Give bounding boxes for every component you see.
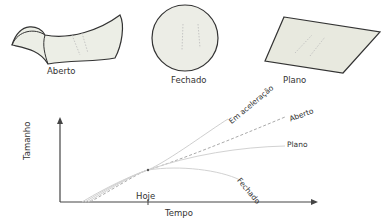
chart-curves [82, 117, 285, 202]
open-label: Aberto [47, 66, 75, 76]
saddle-surface [12, 15, 122, 64]
diagram-canvas [0, 0, 389, 222]
today-annotation: Hoje [136, 191, 155, 201]
series-label-flat: Plano [287, 140, 308, 149]
sphere-surface [152, 5, 218, 71]
y-axis-label: Tamanho [22, 122, 32, 160]
flat-label: Plano [283, 75, 306, 85]
plane-surface [265, 17, 380, 73]
chart-axes [57, 117, 318, 205]
closed-label: Fechado [171, 75, 207, 85]
x-axis-label: Tempo [165, 208, 193, 218]
